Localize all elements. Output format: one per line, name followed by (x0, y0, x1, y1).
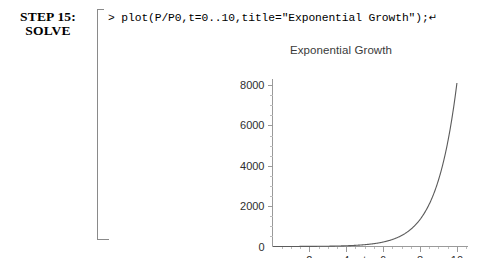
x-axis-tick-label: 4 (343, 254, 349, 259)
step-label: STEP 15: SOLVE (4, 10, 92, 38)
plot-title: Exponential Growth (232, 44, 450, 56)
step-label-line1: STEP 15: (4, 10, 92, 24)
command-prompt: > (108, 12, 121, 24)
x-axis-tick-labels: 246810 (306, 254, 463, 259)
y-axis-tick-label: 6000 (240, 119, 264, 131)
y-axis-ticks (268, 86, 273, 237)
bracket-stem (97, 9, 98, 240)
plot-output[interactable]: Exponential Growth 2000400060008000 2468… (232, 44, 490, 260)
x-axis-group: 246810 (273, 247, 469, 259)
bracket-bottom-foot (97, 239, 109, 240)
y-axis-tick-label: 2000 (240, 200, 264, 212)
x-axis-ticks (283, 247, 467, 252)
exponential-curve (273, 83, 457, 247)
command-text[interactable]: plot(P/P0,t=0..10,title="Exponential Gro… (121, 12, 428, 24)
x-axis-label: t (363, 255, 366, 259)
carriage-return-icon: ↵ (429, 12, 437, 23)
y-axis-tick-label: 4000 (240, 160, 264, 172)
x-axis-tick-label: 8 (417, 254, 423, 259)
command-input-line[interactable]: > plot(P/P0,t=0..10,title="Exponential G… (108, 11, 437, 25)
y-axis-group: 2000400060008000 (240, 79, 272, 246)
y-axis-tick-labels: 2000400060008000 (240, 79, 264, 212)
x-axis-tick-label: 2 (306, 254, 312, 259)
x-axis-tick-label: 10 (451, 254, 463, 259)
bracket-top-foot (97, 9, 104, 10)
execution-group-bracket[interactable] (97, 9, 111, 240)
plot-canvas[interactable]: 2000400060008000 246810 0 t (232, 58, 490, 258)
step-label-line2: SOLVE (4, 24, 92, 38)
y-axis-tick-label: 8000 (240, 79, 264, 91)
origin-tick-label: 0 (258, 241, 264, 253)
x-axis-tick-label: 6 (380, 254, 386, 259)
